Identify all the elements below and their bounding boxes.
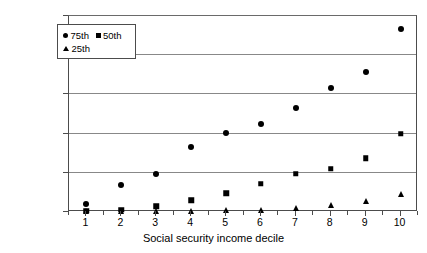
data-point-75th-8 [328,85,334,91]
legend-row-2: 25th [63,42,135,55]
data-point-25th-1 [83,208,89,214]
data-point-25th-4 [188,208,194,214]
data-point-25th-10 [398,191,404,197]
x-tick-label: 9 [350,217,380,228]
data-point-25th-3 [153,208,159,214]
legend-row-1: 75th 50th [63,29,135,42]
x-tick-label: 3 [140,217,170,228]
data-point-50th-4 [188,197,194,203]
x-tick-minor [417,211,418,215]
x-tick-minor [382,211,383,215]
x-tick-label: 8 [315,217,345,228]
x-tick-label: 1 [70,217,100,228]
data-point-75th-1 [83,201,89,207]
chart-legend: 75th 50th 25th [57,24,136,59]
data-point-25th-2 [118,208,124,214]
data-point-25th-9 [363,198,369,204]
data-point-50th-7 [293,171,299,177]
data-point-75th-5 [223,130,229,136]
x-tick-label: 5 [210,217,240,228]
triangle-marker-icon [63,46,69,51]
square-marker-icon [96,33,101,38]
x-axis-title: Social security income decile [0,232,427,244]
legend-entry-25th: 25th [63,44,90,54]
data-point-25th-7 [293,205,299,211]
data-point-25th-6 [258,207,264,213]
data-point-75th-6 [258,121,264,127]
legend-label-75th: 75th [71,31,90,41]
gridline [69,133,416,134]
data-point-50th-10 [398,131,404,137]
x-tick-minor [243,211,244,215]
gridline [69,172,416,173]
x-tick-minor [173,211,174,215]
legend-entry-75th: 75th [63,31,89,41]
legend-label-50th: 50th [103,31,122,41]
legend-entry-50th: 50th [96,31,122,41]
x-tick-minor [347,211,348,215]
x-tick-label: 2 [105,217,135,228]
x-tick-minor [277,211,278,215]
data-point-25th-8 [328,202,334,208]
x-tick-minor [138,211,139,215]
x-tick-minor [68,211,69,215]
data-point-75th-3 [153,171,159,177]
data-point-50th-8 [328,166,334,172]
x-tick-label: 6 [245,217,275,228]
data-point-50th-6 [258,181,264,187]
data-point-75th-2 [118,182,124,188]
data-point-50th-5 [223,191,229,197]
legend-label-25th: 25th [72,44,91,54]
x-tick-minor [312,211,313,215]
circle-marker-icon [63,33,68,38]
data-point-25th-5 [223,207,229,213]
gridline [69,93,416,94]
data-point-75th-4 [188,144,194,150]
x-tick-minor [208,211,209,215]
data-point-50th-9 [363,155,369,161]
x-tick-label: 4 [175,217,205,228]
x-tick-label: 7 [280,217,310,228]
data-point-75th-7 [293,105,299,111]
data-point-75th-10 [398,26,404,32]
data-point-75th-9 [363,69,369,75]
x-tick-label: 10 [385,217,415,228]
x-tick-minor [103,211,104,215]
scatter-chart-figure: $20,000$16,000$16,000$8,000$4,000$0 1234… [0,0,427,253]
